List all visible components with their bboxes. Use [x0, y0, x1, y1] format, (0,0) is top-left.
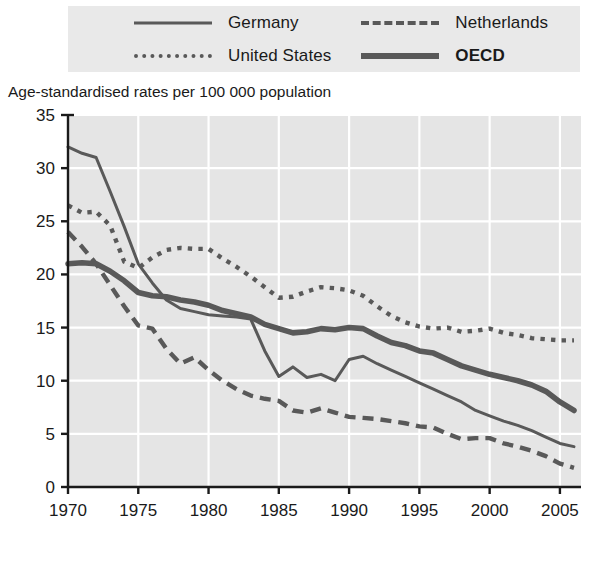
legend-swatch-netherlands [361, 17, 439, 29]
x-tick-label: 2005 [541, 501, 579, 520]
x-tick-label: 1980 [190, 501, 228, 520]
x-tick-label: 1990 [330, 501, 368, 520]
y-tick-label: 20 [36, 265, 55, 284]
legend-label-netherlands: Netherlands [455, 13, 548, 33]
legend-swatch-oecd [361, 50, 439, 62]
y-tick-label: 0 [46, 478, 55, 497]
y-tick-label: 30 [36, 159, 55, 178]
y-tick-label: 5 [46, 425, 55, 444]
x-tick-label: 1970 [49, 501, 87, 520]
legend-item-united-states: United States [68, 39, 331, 72]
x-tick-label: 1985 [260, 501, 298, 520]
legend-swatch-germany [134, 17, 212, 29]
legend-label-oecd: OECD [455, 46, 505, 66]
x-tick-label: 1975 [119, 501, 157, 520]
legend-item-germany: Germany [68, 6, 331, 39]
legend-item-oecd: OECD [331, 39, 580, 72]
plot-background [68, 115, 581, 487]
chart-page: Germany Netherlands United States OECD A… [0, 0, 606, 588]
legend-label-united-states: United States [228, 46, 331, 66]
y-tick-label: 10 [36, 372, 55, 391]
legend-label-germany: Germany [228, 13, 299, 33]
chart-subtitle: Age-standardised rates per 100 000 popul… [8, 83, 331, 101]
chart-plot-area: 0510152025303519701975198019851990199520… [0, 104, 606, 588]
legend-item-netherlands: Netherlands [331, 6, 580, 39]
y-tick-label: 25 [36, 212, 55, 231]
x-tick-label: 1995 [400, 501, 438, 520]
y-tick-label: 35 [36, 106, 55, 125]
x-tick-label: 2000 [471, 501, 509, 520]
chart-legend: Germany Netherlands United States OECD [68, 6, 580, 72]
legend-swatch-united-states [134, 50, 212, 62]
line-chart: 0510152025303519701975198019851990199520… [0, 104, 606, 588]
y-tick-label: 15 [36, 319, 55, 338]
